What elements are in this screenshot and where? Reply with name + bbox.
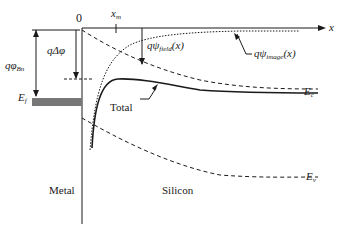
fermi-level-label: Ef [18, 92, 27, 105]
metal-region-label: Metal [49, 185, 75, 196]
valence-band-label: Ev [306, 171, 316, 184]
arrow-down [33, 90, 39, 97]
x-axis-label: x [329, 22, 334, 33]
barrier-lowering-label: qΔφ [47, 45, 65, 56]
total-leader-arrow [152, 84, 158, 91]
barrier-height-label: qφBn [5, 60, 24, 73]
field-potential-label: qψfield(x) [147, 40, 184, 53]
xm-label: xm [111, 8, 121, 21]
origin-label: 0 [76, 12, 82, 24]
conduction-band-label: Ec [304, 86, 314, 99]
silicon-region-label: Silicon [162, 185, 193, 196]
fermi-level-bar [32, 98, 82, 106]
total-label: Total [110, 102, 132, 113]
band-diagram [0, 0, 346, 235]
total-leader [140, 88, 156, 99]
arrow-down-2 [73, 72, 79, 79]
arrow-up [33, 30, 39, 37]
image-potential-label: qψimage(x) [254, 48, 296, 61]
arrow-down-3 [139, 58, 145, 65]
x-axis-arrowhead [318, 25, 326, 31]
total-energy-curve [92, 79, 318, 148]
valence-band-curve [82, 118, 318, 177]
